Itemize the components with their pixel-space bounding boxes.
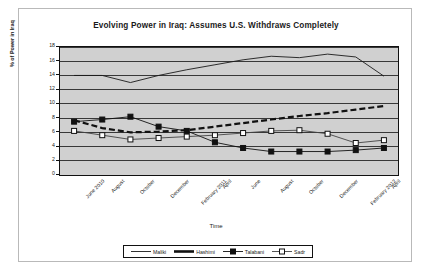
y-tick-label: 8 — [39, 115, 55, 120]
x-tick-label: June — [249, 178, 261, 190]
y-tick-mark — [56, 46, 59, 47]
data-point-marker — [297, 149, 302, 154]
y-tick-label: 10 — [39, 100, 55, 105]
legend-item-hashimi[interactable]: Hashimi — [174, 248, 215, 255]
chart-figure: Evolving Power in Iraq: Assumes U.S. Wit… — [0, 0, 430, 270]
y-axis-title: % of Power in Iraq — [9, 20, 15, 67]
data-point-marker — [156, 136, 161, 141]
data-point-marker — [156, 124, 161, 129]
x-tick-label: October — [308, 178, 325, 195]
y-tick-mark — [56, 117, 59, 118]
data-point-marker — [325, 131, 330, 136]
y-tick-label: 18 — [39, 43, 55, 48]
data-point-marker — [297, 128, 302, 133]
y-tick-mark — [56, 160, 59, 161]
y-tick-mark — [56, 60, 59, 61]
x-axis-title: Time — [19, 223, 413, 229]
x-tick-label: October — [139, 178, 156, 195]
x-tick-label: June 2010 — [84, 178, 105, 199]
legend-swatch-hashimi — [174, 248, 194, 255]
legend-label: Talabani — [245, 249, 264, 255]
data-point-marker — [381, 138, 386, 143]
data-point-marker — [184, 128, 189, 133]
y-tick-mark — [56, 103, 59, 104]
series-line-hashimi — [74, 106, 384, 132]
series-line-maliki — [74, 54, 384, 82]
data-point-marker — [241, 145, 246, 150]
data-point-marker — [72, 119, 77, 124]
legend-swatch-maliki — [131, 248, 151, 255]
y-tick-mark — [56, 74, 59, 75]
x-tick-label: August — [279, 178, 295, 194]
plot-series-svg — [60, 47, 398, 175]
legend-item-talabani[interactable]: Talabani — [223, 248, 264, 255]
data-point-marker — [128, 114, 133, 119]
y-tick-mark — [56, 89, 59, 90]
data-point-marker — [72, 128, 77, 133]
data-point-marker — [100, 117, 105, 122]
data-point-marker — [325, 149, 330, 154]
data-point-marker — [212, 140, 217, 145]
data-point-marker — [353, 141, 358, 146]
y-tick-label: 14 — [39, 72, 55, 77]
legend-swatch-sadr — [272, 248, 292, 255]
data-point-marker — [100, 133, 105, 138]
chart-frame: Evolving Power in Iraq: Assumes U.S. Wit… — [18, 8, 412, 262]
y-tick-label: 12 — [39, 86, 55, 91]
y-tick-mark — [56, 174, 59, 175]
data-point-marker — [353, 148, 358, 153]
data-point-marker — [128, 137, 133, 142]
y-tick-label: 4 — [39, 143, 55, 148]
chart-legend: MalikiHashimiTalabaniSadr — [123, 245, 313, 258]
x-tick-label: December — [338, 178, 359, 199]
chart-title: Evolving Power in Iraq: Assumes U.S. Wit… — [19, 21, 413, 30]
x-tick-label: August — [110, 178, 126, 194]
legend-swatch-talabani — [223, 248, 243, 255]
legend-label: Hashimi — [196, 249, 215, 255]
legend-item-sadr[interactable]: Sadr — [272, 248, 305, 255]
data-point-marker — [241, 131, 246, 136]
y-tick-label: 0 — [39, 171, 55, 176]
data-point-marker — [381, 145, 386, 150]
x-tick-label: December — [169, 178, 190, 199]
legend-item-maliki[interactable]: Maliki — [131, 248, 166, 255]
data-point-marker — [184, 134, 189, 139]
plot-area — [59, 46, 399, 176]
y-tick-label: 6 — [39, 129, 55, 134]
y-tick-label: 2 — [39, 157, 55, 162]
legend-label: Maliki — [153, 249, 166, 255]
y-tick-label: 16 — [39, 58, 55, 63]
legend-label: Sadr — [294, 249, 305, 255]
data-point-marker — [212, 133, 217, 138]
data-point-marker — [269, 128, 274, 133]
y-tick-mark — [56, 131, 59, 132]
data-point-marker — [269, 149, 274, 154]
y-tick-mark — [56, 146, 59, 147]
